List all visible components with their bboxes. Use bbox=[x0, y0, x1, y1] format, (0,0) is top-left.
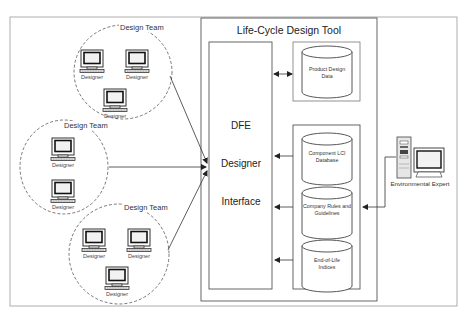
designer-label: Designer bbox=[83, 253, 105, 259]
designer-label: Designer bbox=[126, 74, 148, 80]
team-2-label: Design Team bbox=[63, 121, 109, 130]
interface-label-line-2: Designer bbox=[221, 158, 261, 169]
designer-label: Designer bbox=[52, 204, 74, 210]
tool-title: Life-Cycle Design Tool bbox=[237, 24, 341, 36]
end-of-life-label: End-of-Life Indices bbox=[308, 257, 346, 270]
designer-label: Designer bbox=[52, 162, 74, 168]
company-rules-label: Company Rules and Guidelines bbox=[303, 203, 351, 216]
designer-label: Designer bbox=[106, 291, 128, 297]
designer-computer-icon bbox=[80, 50, 104, 73]
interface-label-line-1: DFE bbox=[231, 120, 251, 131]
expert-workstation-icon bbox=[397, 137, 444, 178]
designer-computer-icon bbox=[105, 267, 129, 290]
component-lci-label: Component LCI Database bbox=[305, 150, 349, 163]
team-1-label: Design Team bbox=[119, 23, 165, 32]
designer-computer-icon bbox=[127, 229, 151, 252]
environmental-expert-label: Environmental Expert bbox=[390, 180, 449, 187]
designer-computer-icon bbox=[82, 229, 106, 252]
interface-label-line-3: Interface bbox=[222, 196, 261, 207]
designer-label: Designer bbox=[104, 113, 126, 119]
designer-computer-icon bbox=[51, 138, 75, 161]
product-design-data-label: Product Design Data bbox=[303, 66, 351, 79]
designer-computer-icon bbox=[103, 89, 127, 112]
team-3-label: Design Team bbox=[123, 203, 169, 212]
diagram-canvas: Life-Cycle Design Tool DFE Designer Inte… bbox=[0, 0, 465, 317]
designer-label: Designer bbox=[128, 253, 150, 259]
designer-computer-icon bbox=[51, 180, 75, 203]
designer-label: Designer bbox=[81, 74, 103, 80]
designer-computer-icon bbox=[125, 50, 149, 73]
